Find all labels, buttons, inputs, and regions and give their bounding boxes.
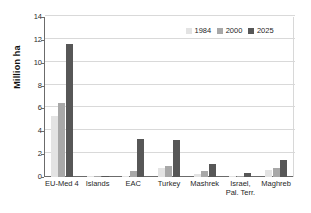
bar-group <box>223 17 259 177</box>
legend-swatch-icon-2000 <box>217 28 223 34</box>
bar-group <box>258 17 294 177</box>
y-axis-tick-12: 12 <box>24 36 42 44</box>
y-axis-tick-8: 8 <box>24 82 42 90</box>
bar-group <box>151 17 187 177</box>
x-axis-tick-label-line: Maghreb <box>261 179 291 188</box>
bar[interactable] <box>229 176 236 177</box>
bar[interactable] <box>280 160 287 177</box>
bar[interactable] <box>51 116 58 177</box>
y-axis-tick-2: 2 <box>24 150 42 158</box>
bar[interactable] <box>122 176 129 177</box>
chart-legend: 1984 2000 2025 <box>186 26 274 35</box>
legend-swatch-icon-1984 <box>186 28 192 34</box>
x-axis-tick-label-line: EAC <box>126 179 141 188</box>
bar[interactable] <box>158 168 165 177</box>
y-axis-tick-mark <box>41 131 44 132</box>
y-axis-tick-mark <box>41 63 44 64</box>
bar[interactable] <box>58 103 65 177</box>
bar[interactable] <box>87 176 94 177</box>
y-axis-tick-mark <box>41 17 44 18</box>
y-axis-tick-mark <box>41 40 44 41</box>
bar[interactable] <box>209 164 216 177</box>
bar[interactable] <box>94 176 101 177</box>
legend-item-2000[interactable]: 2000 <box>217 26 242 35</box>
bar-group <box>44 17 80 177</box>
y-axis-tick-6: 6 <box>24 104 42 112</box>
bar[interactable] <box>201 171 208 177</box>
y-axis-tick-mark <box>41 154 44 155</box>
legend-item-2025[interactable]: 2025 <box>248 26 273 35</box>
bar-group <box>187 17 223 177</box>
y-axis-tick-10: 10 <box>24 59 42 67</box>
bar-group <box>115 17 151 177</box>
bar[interactable] <box>194 174 201 177</box>
bar[interactable] <box>137 139 144 177</box>
bar[interactable] <box>273 168 280 177</box>
bar[interactable] <box>244 173 251 177</box>
bar-group <box>80 17 116 177</box>
legend-label-2000: 2000 <box>226 26 243 35</box>
y-axis-tick-4: 4 <box>24 127 42 135</box>
bar[interactable] <box>102 176 109 177</box>
legend-item-1984[interactable]: 1984 <box>186 26 211 35</box>
bar-chart: Million ha 02468101214 EU-Med 4IslandsEA… <box>0 0 311 213</box>
y-axis-tick-14: 14 <box>24 13 42 21</box>
legend-swatch-icon-2025 <box>248 28 254 34</box>
bar[interactable] <box>265 170 272 177</box>
bars-layer <box>44 17 294 177</box>
bar[interactable] <box>66 44 73 177</box>
x-axis-tick-label: Maghreb <box>248 179 304 188</box>
x-axis-tick-label-line: Pal. Terr. <box>213 188 269 197</box>
legend-label-1984: 1984 <box>195 26 212 35</box>
x-axis-tick-labels: EU-Med 4IslandsEACTurkeyMashrekIsrael,Pa… <box>44 179 294 213</box>
bar[interactable] <box>237 176 244 177</box>
y-axis-tick-mark <box>41 177 44 178</box>
bar[interactable] <box>165 166 172 177</box>
legend-label-2025: 2025 <box>257 26 274 35</box>
y-axis-tick-mark <box>41 108 44 109</box>
gridline <box>45 15 295 16</box>
y-axis-tick-mark <box>41 86 44 87</box>
bar[interactable] <box>130 171 137 177</box>
y-axis-tick-labels: 02468101214 <box>20 0 42 177</box>
bar[interactable] <box>173 140 180 177</box>
